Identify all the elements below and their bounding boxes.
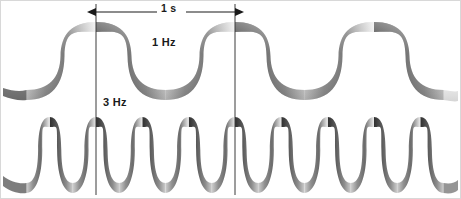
frequency-label-3hz: 3 Hz — [103, 96, 127, 108]
duration-label: 1 s — [161, 2, 177, 14]
frequency-label-1hz: 1 Hz — [152, 36, 176, 48]
wave-3hz — [3, 117, 458, 193]
wave-diagram-canvas — [0, 0, 461, 199]
wave-frequency-figure: 1 s 1 Hz 3 Hz — [0, 0, 461, 199]
wave-1hz — [3, 22, 458, 101]
